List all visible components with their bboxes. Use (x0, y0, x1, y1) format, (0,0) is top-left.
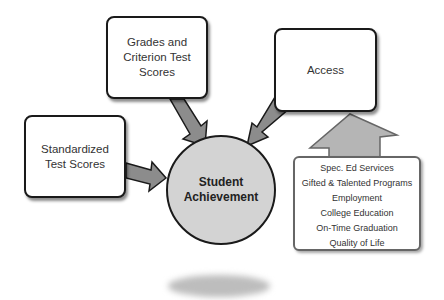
student-achievement-label: Student Achievement (184, 175, 259, 205)
factor-item: Employment (295, 191, 419, 206)
grades-criterion-label: Grades and Criterion Test Scores (123, 35, 191, 80)
arrow-standardized-to-center (126, 162, 166, 191)
access-box: Access (274, 28, 377, 112)
factor-item: Spec. Ed Services (295, 161, 419, 176)
circle-shadow (168, 275, 270, 297)
factor-item: College Education (295, 206, 419, 221)
factor-item: Gifted & Talented Programs (295, 176, 419, 191)
grades-criterion-box: Grades and Criterion Test Scores (106, 16, 208, 99)
standardized-test-box: Standardized Test Scores (24, 115, 126, 198)
factor-item: On-Time Graduation (295, 221, 419, 236)
factor-item: Quality of Life (295, 236, 419, 251)
arrow-factors-to-access (310, 114, 397, 157)
student-achievement-circle: Student Achievement (166, 135, 276, 245)
access-factors-box: Spec. Ed Services Gifted & Talented Prog… (293, 156, 421, 251)
access-label: Access (307, 63, 344, 78)
standardized-test-label: Standardized Test Scores (41, 142, 109, 172)
